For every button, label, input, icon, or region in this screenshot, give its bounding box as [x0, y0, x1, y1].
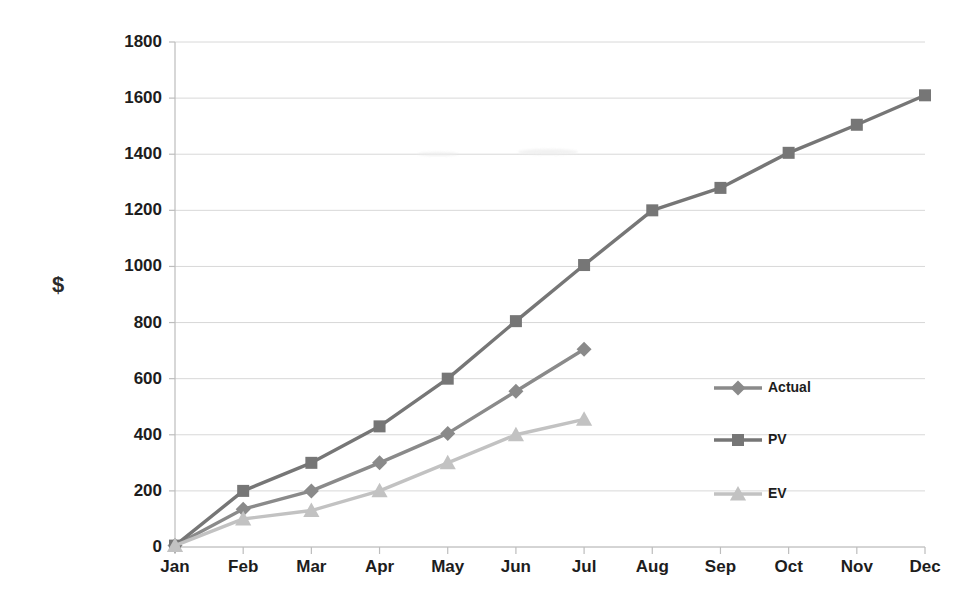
- legend-marker-ev: [712, 483, 764, 505]
- data-point-square: [442, 373, 454, 385]
- data-point-diamond: [372, 455, 387, 470]
- legend-label-pv: PV: [768, 431, 787, 447]
- data-point-diamond: [304, 483, 319, 498]
- data-point-square: [919, 89, 931, 101]
- data-point-diamond: [508, 384, 523, 399]
- plot-area: [0, 0, 976, 612]
- legend-label-actual: Actual: [768, 379, 811, 395]
- data-point-square: [714, 182, 726, 194]
- scan-artifact-2: [518, 149, 578, 155]
- data-point-square: [578, 259, 590, 271]
- data-point-square: [646, 204, 658, 216]
- data-point-square: [374, 420, 386, 432]
- data-point-square: [783, 147, 795, 159]
- legend-label-ev: EV: [768, 485, 787, 501]
- series-line-pv: [175, 95, 925, 545]
- legend-marker-pv: [712, 429, 764, 451]
- data-point-diamond: [440, 426, 455, 441]
- data-point-square: [851, 119, 863, 131]
- data-point-triangle: [576, 411, 592, 426]
- data-point-diamond: [731, 381, 746, 396]
- data-point-square: [732, 434, 744, 446]
- data-point-square: [305, 457, 317, 469]
- data-point-square: [510, 315, 522, 327]
- data-point-diamond: [577, 342, 592, 357]
- legend-marker-actual: [712, 377, 764, 399]
- data-point-square: [237, 485, 249, 497]
- series-line-ev: [175, 419, 584, 545]
- chart-container: $ 180016001400120010008006004002000 JanF…: [0, 0, 976, 612]
- scan-artifact-1: [418, 152, 458, 156]
